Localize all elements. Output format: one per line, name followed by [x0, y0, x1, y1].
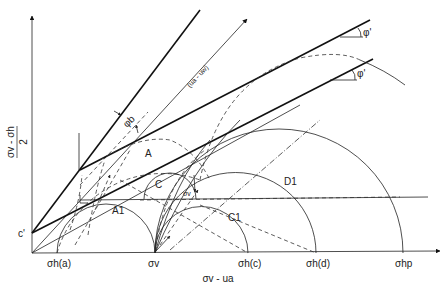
phi-prime-top-label: φ' — [363, 27, 371, 38]
phi-b-label: φb — [121, 113, 138, 130]
mohr-circle-passive — [155, 129, 403, 253]
sigma-v-mid-label: σv — [183, 190, 191, 197]
phi-b-arrow-1 — [114, 111, 121, 115]
stress-path-arrow-up — [160, 190, 198, 245]
x-tick-sigma-h-c: σh(c) — [238, 258, 261, 269]
solid-arc-upper-end — [360, 60, 405, 85]
y-axis-label-numerator: σv - σh — [5, 126, 16, 158]
y-axis-label-denominator: 2 — [18, 139, 29, 145]
circle-label-C: C — [155, 179, 162, 190]
circle-label-A1: A1 — [112, 205, 125, 216]
dashed-arc-upper — [200, 54, 360, 180]
dashed-path-to-sigma-h-d — [200, 205, 316, 253]
x-axis — [32, 251, 440, 253]
x-tick-sigma-h-a: σh(a) — [47, 258, 71, 269]
circle-label-A: A — [145, 148, 152, 159]
x-tick-sigma-hp: σhp — [395, 258, 413, 269]
phi-prime-bottom-arc — [352, 70, 355, 80]
mohr-circle-A1 — [57, 204, 155, 253]
mohr-circle-A — [57, 173, 200, 253]
x-tick-sigma-h-d: σh(d) — [306, 258, 330, 269]
suction-axis — [32, 19, 247, 253]
circle-label-D1: D1 — [284, 176, 297, 187]
stress-path-diagram: σv - σh 2 c' σh(a) σv σh(c) σh(d) σhp σv… — [0, 0, 444, 289]
intercept-label: c' — [18, 228, 25, 239]
x-tick-sigma-v: σv — [148, 258, 159, 269]
x-axis-label: σv - ua — [202, 273, 234, 284]
suction-axis-label: (ua - uw) — [186, 64, 211, 90]
phi-prime-bottom-label: φ' — [357, 68, 365, 79]
y-axis-label: σv - σh 2 — [5, 126, 29, 158]
phi-b-arrow-2 — [136, 125, 138, 133]
phi-prime-top-arc — [358, 28, 361, 37]
